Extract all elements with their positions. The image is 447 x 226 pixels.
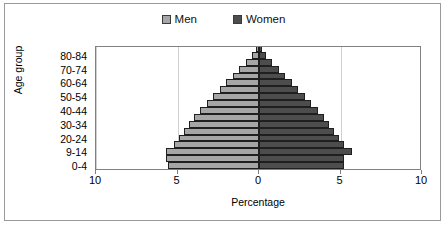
legend-label-men: Men: [175, 14, 197, 26]
x-axis-tick-labels: 1050510: [95, 175, 421, 191]
bar-row: [96, 121, 420, 128]
bar-row: [96, 148, 420, 155]
bar-row: [96, 73, 420, 80]
bar-women-60-64: [259, 79, 292, 86]
bar-row: [96, 46, 420, 52]
bar-row: [96, 128, 420, 135]
y-tick-label-50-54: 50-54: [60, 92, 87, 103]
bar-men-60-64: [226, 79, 259, 86]
y-tick-label-9-14: 9-14: [66, 147, 87, 158]
bar-men-20-24: [179, 135, 259, 142]
bar-women-15-19: [259, 141, 344, 148]
plot-area: [95, 46, 421, 170]
bar-men-5-9: [166, 155, 259, 162]
bar-men-70-74: [239, 66, 259, 73]
bar-men-25-29: [184, 128, 259, 135]
bar-row: [96, 100, 420, 107]
bar-women-55-59: [259, 86, 298, 93]
y-axis-tick-labels: 80-8470-7460-6450-5440-4430-3420-249-140…: [33, 46, 91, 170]
bar-row: [96, 162, 420, 169]
legend-label-women: Women: [246, 14, 285, 26]
bar-women-25-29: [259, 128, 334, 135]
bar-row: [96, 79, 420, 86]
y-tick-label-40-44: 40-44: [60, 106, 87, 117]
bar-men-35-39: [194, 114, 259, 121]
bar-women-80-84: [259, 52, 266, 59]
bar-row: [96, 141, 420, 148]
x-tick-label-1: 5: [173, 175, 179, 186]
legend-entry-men: Men: [162, 14, 197, 26]
x-axis-title: Percentage: [95, 196, 421, 208]
bar-men-55-59: [220, 86, 259, 93]
bar-row: [96, 52, 420, 59]
bar-men-80-84: [252, 52, 259, 59]
bar-row: [96, 59, 420, 66]
bar-women-30-34: [259, 121, 329, 128]
x-tick-label-4: 10: [415, 175, 427, 186]
chart-legend: Men Women: [0, 14, 447, 26]
y-tick-label-70-74: 70-74: [60, 65, 87, 76]
bar-men-0-4: [168, 162, 259, 169]
bar-men-45-49: [207, 100, 259, 107]
bar-men-9-14: [166, 148, 259, 155]
bar-men-65-69: [233, 73, 259, 80]
bar-men-30-34: [189, 121, 259, 128]
bar-women-65-69: [259, 73, 285, 80]
bar-series-container: [96, 47, 420, 169]
bar-women-0-4: [259, 162, 344, 169]
bar-women-5-9: [259, 155, 344, 162]
y-axis-title: Age group: [12, 26, 24, 114]
x-tick-label-2: 0: [255, 175, 261, 186]
x-tick-label-3: 5: [336, 175, 342, 186]
bar-women-85+: [259, 46, 262, 52]
bar-men-75-79: [246, 59, 259, 66]
legend-swatch-men-icon: [162, 15, 171, 24]
legend-entry-women: Women: [233, 14, 285, 26]
bar-row: [96, 93, 420, 100]
bar-row: [96, 107, 420, 114]
y-tick-label-20-24: 20-24: [60, 134, 87, 145]
bar-men-50-54: [213, 93, 259, 100]
bar-row: [96, 86, 420, 93]
y-tick-label-80-84: 80-84: [60, 51, 87, 62]
bar-women-20-24: [259, 135, 339, 142]
bar-women-50-54: [259, 93, 305, 100]
y-tick-label-30-34: 30-34: [60, 120, 87, 131]
bar-row: [96, 155, 420, 162]
bar-women-9-14: [259, 148, 352, 155]
bar-men-40-44: [200, 107, 259, 114]
bar-women-75-79: [259, 59, 272, 66]
bar-row: [96, 66, 420, 73]
y-tick-label-0-4: 0-4: [72, 161, 87, 172]
bar-women-40-44: [259, 107, 318, 114]
y-tick-label-60-64: 60-64: [60, 78, 87, 89]
bar-men-15-19: [174, 141, 259, 148]
legend-swatch-women-icon: [233, 15, 242, 24]
population-pyramid-figure: Men Women Age group 80-8470-7460-6450-54…: [0, 0, 447, 226]
bar-women-35-39: [259, 114, 324, 121]
x-tick-label-0: 10: [89, 175, 101, 186]
bar-women-45-49: [259, 100, 311, 107]
bar-row: [96, 135, 420, 142]
bar-row: [96, 114, 420, 121]
bar-women-70-74: [259, 66, 279, 73]
